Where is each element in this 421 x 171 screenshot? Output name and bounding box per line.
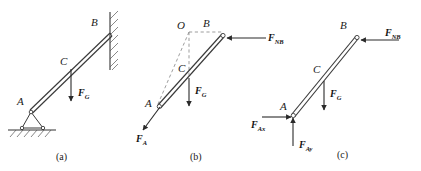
force-label-fnb-c: FNB xyxy=(385,28,401,41)
point-label-c-B: B xyxy=(340,20,347,31)
figure-canvas: A B C FG (a) A B C O FNB FG FA (b) A B C… xyxy=(0,0,421,171)
rod-ab-c xyxy=(292,36,358,117)
force-label-fg-c: FG xyxy=(330,89,341,102)
pin-support-a xyxy=(8,110,56,137)
force-label-fg-a: FG xyxy=(78,88,89,101)
point-label-b-C: C xyxy=(178,63,185,74)
figure-vector-layer xyxy=(0,0,421,171)
force-label-fax-c: FAx xyxy=(251,120,265,133)
caption-a: (a) xyxy=(56,152,67,162)
point-label-a-C: C xyxy=(60,56,67,67)
joint-marker-c-top xyxy=(355,35,359,39)
joint-marker-b-top xyxy=(221,33,225,37)
panel-b xyxy=(143,32,266,130)
point-label-c-A: A xyxy=(280,101,287,112)
rod-ab-b xyxy=(158,34,224,108)
force-label-fay-c: FAy xyxy=(299,140,312,153)
point-label-a-B: B xyxy=(91,17,98,28)
point-label-c-C: C xyxy=(313,64,320,75)
force-label-fa-b: FA xyxy=(136,134,147,147)
wall-b xyxy=(110,11,118,70)
point-label-b-B: B xyxy=(203,18,210,29)
caption-c: (c) xyxy=(337,150,348,160)
force-label-fnb-b: FNB xyxy=(268,33,284,46)
caption-b: (b) xyxy=(190,152,202,162)
joint-marker-c-bottom xyxy=(291,113,295,117)
panel-a xyxy=(8,11,118,137)
point-label-b-O: O xyxy=(177,20,185,31)
point-label-b-A: A xyxy=(145,98,152,109)
construction-lines-b xyxy=(158,32,222,104)
point-label-a-A: A xyxy=(17,96,24,107)
force-label-fg-b: FG xyxy=(195,86,206,99)
force-fa-b xyxy=(143,107,160,130)
